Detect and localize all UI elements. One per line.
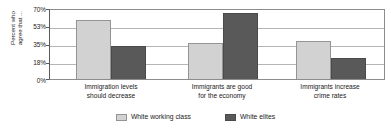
- legend-item-white-working-class: White working class: [116, 113, 191, 121]
- bar-white-elites-immigrants-are-good-for-the-economy: [223, 13, 258, 79]
- bar-white-working-class-immigration-levels-should-decrease: [76, 20, 111, 79]
- legend-swatch-icon-white-working-class: [116, 114, 127, 121]
- legend-swatch-icon-white-elites: [225, 114, 236, 121]
- chart-legend: White working class White elites: [0, 110, 391, 124]
- bar-white-elites-immigrants-increase-crime-rates: [331, 58, 366, 79]
- bar-white-working-class-immigrants-increase-crime-rates: [296, 41, 331, 79]
- legend-label-white-working-class: White working class: [131, 113, 191, 121]
- category-label-3-line-1: Immigrants increase: [265, 83, 391, 92]
- bar-white-elites-immigration-levels-should-decrease: [111, 46, 146, 80]
- category-label-3-line-2: crime rates: [265, 92, 391, 101]
- legend-label-white-elites: White elites: [240, 113, 275, 121]
- bar-white-working-class-immigrants-are-good-for-the-economy: [188, 43, 223, 79]
- legend-item-white-elites: White elites: [225, 113, 275, 121]
- bars-layer: [50, 10, 384, 79]
- y-axis-title-line-1: Percent who: [9, 11, 16, 45]
- plot-area: [49, 9, 385, 80]
- x-axis-category-labels: Immigration levels should decrease Immig…: [49, 83, 385, 107]
- bar-chart: Percent who agree that ... 70% 53% 35% 1…: [0, 0, 391, 130]
- category-label-immigrants-increase-crime-rates: Immigrants increase crime rates: [265, 83, 391, 100]
